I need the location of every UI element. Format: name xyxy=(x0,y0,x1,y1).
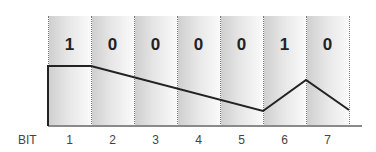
axis-label: BIT xyxy=(18,133,37,147)
bit-position-7: 7 xyxy=(306,133,349,147)
bit-position-4: 4 xyxy=(177,133,220,147)
bit-position-6: 6 xyxy=(263,133,306,147)
bit-position-2: 2 xyxy=(91,133,134,147)
bit-position-1: 1 xyxy=(48,133,91,147)
waveform-line xyxy=(0,0,376,152)
bit-position-3: 3 xyxy=(134,133,177,147)
bit-position-5: 5 xyxy=(220,133,263,147)
